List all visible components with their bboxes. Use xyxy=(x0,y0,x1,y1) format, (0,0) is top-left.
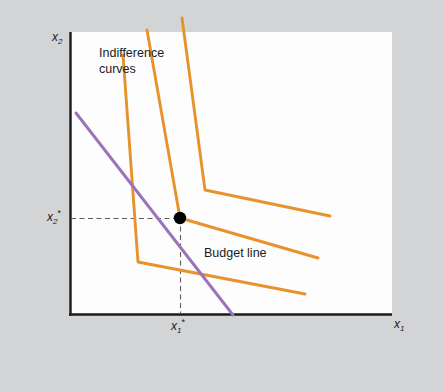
x-axis-optimum-tick-label: x1* xyxy=(171,317,185,335)
x-axis-title: x1 xyxy=(394,317,404,333)
diagram-canvas xyxy=(0,0,444,392)
indifference-curve-3 xyxy=(182,18,330,216)
budget-line-annotation: Budget line xyxy=(204,246,267,262)
indifference-curves-annotation: Indifference curves xyxy=(99,46,164,77)
indifference-curve-2 xyxy=(147,30,318,258)
budget-line xyxy=(76,113,233,315)
optimal-bundle-point xyxy=(174,212,186,224)
y-axis-optimum-tick-label: x2* xyxy=(47,208,61,226)
economics-diagram: x2 x1 x2* x1* Indifference curves Budget… xyxy=(0,0,444,392)
y-axis-title: x2 xyxy=(52,30,62,46)
